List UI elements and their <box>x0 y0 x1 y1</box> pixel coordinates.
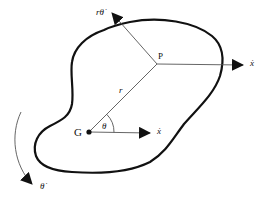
velocity-g-x-arrow <box>89 132 150 133</box>
angle-arc <box>107 114 114 132</box>
velocity-p-x-label: ẋ <box>250 59 254 68</box>
radius-line <box>89 64 157 132</box>
angular-velocity-label: θ̇ <box>40 182 44 191</box>
velocity-g-x-label: ẋ <box>157 127 161 136</box>
radius-label: r <box>119 86 123 95</box>
point-g-label: G <box>74 127 82 138</box>
point-p-label: P <box>158 52 163 61</box>
rigid-body-diagram <box>0 0 264 199</box>
tangential-velocity-label: rθ̇ <box>96 8 104 17</box>
angle-label: θ <box>102 122 106 131</box>
angular-velocity-arrow <box>15 112 32 184</box>
rigid-body-outline <box>35 20 223 173</box>
point-g-dot <box>86 129 91 134</box>
velocity-p-x-arrow <box>157 64 243 65</box>
